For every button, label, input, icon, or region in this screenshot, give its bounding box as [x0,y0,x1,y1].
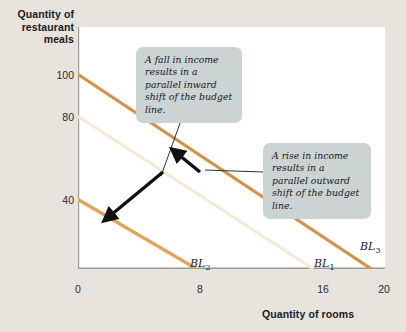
budget-line-label-bl2: BL2 [190,257,210,272]
bl2-label-sub: 2 [205,263,210,272]
inward-shift-arrow [111,172,163,215]
outward-shift-arrow [179,155,200,172]
bl3-label-text: BL [360,240,375,253]
budget-line-label-bl3: BL3 [360,240,380,255]
bl1-label-sub: 1 [329,263,334,272]
bl2-label-text: BL [190,257,205,270]
callout-rise-in-income: A rise in income results in a parallel o… [263,143,371,219]
bl1-label-text: BL [314,257,329,270]
leader-line-rise [205,170,263,172]
bl3-label-sub: 3 [375,246,380,255]
callout-fall-in-income: A fall in income results in a parallel i… [136,47,242,123]
budget-line-shift-figure: Quantity of restaurant meals 100 80 40 0… [0,0,406,332]
budget-line-label-bl1: BL1 [314,257,334,272]
